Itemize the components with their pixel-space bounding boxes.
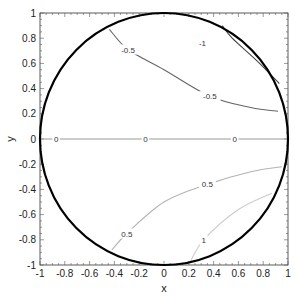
y-tick-label: 0 <box>30 134 36 145</box>
y-tick-label: 1 <box>30 8 36 19</box>
contour-labels: -1-0.5-0.50000.50.51 <box>52 38 238 245</box>
y-tick-labels: -1-0.8-0.6-0.4-0.200.20.40.60.81 <box>19 8 37 271</box>
y-tick-label: 0.4 <box>22 83 36 94</box>
contour-label: 0 <box>232 135 237 144</box>
contour-label: 0 <box>143 135 148 144</box>
contour-lines <box>40 26 288 263</box>
x-tick-label: 1 <box>285 268 291 279</box>
contour-label: 0 <box>54 135 59 144</box>
y-axis-label: y <box>4 136 16 142</box>
y-tick-label: -0.4 <box>19 184 37 195</box>
contour-label: -0.5 <box>203 92 217 101</box>
x-tick-label: 0.8 <box>256 268 270 279</box>
x-tick-label: -0.6 <box>81 268 99 279</box>
y-tick-label: -0.6 <box>19 209 37 220</box>
x-tick-label: 0.2 <box>182 268 196 279</box>
contour-line--0.5 <box>109 29 278 111</box>
contour-label: 0.5 <box>121 230 133 239</box>
x-axis-label: x <box>161 282 167 294</box>
y-tick-label: -1 <box>27 260 36 271</box>
x-tick-label: 0.4 <box>207 268 221 279</box>
contour-label: -1 <box>199 39 207 48</box>
y-tick-label: -0.2 <box>19 159 37 170</box>
x-tick-label: 0.6 <box>231 268 245 279</box>
contour-chart: -1-0.8-0.6-0.4-0.200.20.40.60.81 -1-0.8-… <box>0 0 295 300</box>
contour-line-1 <box>190 193 272 262</box>
contour-label: 0.5 <box>202 180 214 189</box>
x-tick-label: 0 <box>161 268 167 279</box>
contour-label: 1 <box>201 236 206 245</box>
contour-line-0.5 <box>112 167 282 250</box>
y-tick-label: -0.8 <box>19 234 37 245</box>
x-tick-labels: -1-0.8-0.6-0.4-0.200.20.40.60.81 <box>36 268 292 279</box>
contour-label: -0.5 <box>121 46 135 55</box>
y-tick-label: 0.2 <box>22 108 36 119</box>
x-tick-label: -0.4 <box>106 268 124 279</box>
x-tick-label: -0.2 <box>131 268 149 279</box>
x-tick-label: -1 <box>36 268 45 279</box>
y-tick-label: 0.6 <box>22 58 36 69</box>
y-tick-label: 0.8 <box>22 33 36 44</box>
x-tick-label: -0.8 <box>56 268 74 279</box>
